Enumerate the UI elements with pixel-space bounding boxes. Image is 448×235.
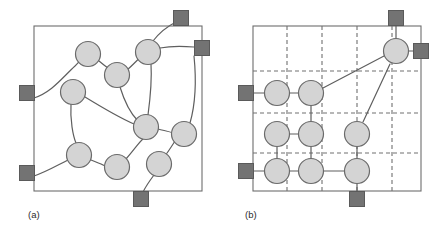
node-a8 bbox=[105, 155, 130, 180]
terminal-a-left-upper bbox=[20, 86, 35, 101]
node-b-r3c3 bbox=[345, 159, 370, 184]
node-b-r1c1 bbox=[265, 81, 290, 106]
terminal-a-right bbox=[195, 41, 210, 56]
node-b-top-right bbox=[384, 39, 409, 64]
node-a4 bbox=[61, 80, 86, 105]
terminal-a-bottom bbox=[134, 192, 149, 207]
node-a9 bbox=[147, 152, 172, 177]
node-b-r2c1 bbox=[265, 122, 290, 147]
panel-b-label: (b) bbox=[245, 209, 257, 220]
node-a3 bbox=[105, 63, 130, 88]
panel-b: (b) bbox=[239, 11, 429, 221]
terminal-a-top bbox=[174, 11, 189, 26]
node-b-r3c1 bbox=[265, 159, 290, 184]
terminal-b-right bbox=[414, 44, 429, 59]
terminal-b-left-lower bbox=[239, 164, 254, 179]
node-b-r1c2 bbox=[299, 81, 324, 106]
node-b-r3c2 bbox=[299, 159, 324, 184]
terminal-b-left-upper bbox=[239, 86, 254, 101]
node-a7 bbox=[67, 143, 92, 168]
terminal-b-top bbox=[389, 11, 404, 26]
network-comparison-figure: (a)(b) bbox=[0, 0, 448, 235]
node-a5 bbox=[134, 115, 159, 140]
node-b-r2c2 bbox=[299, 122, 324, 147]
node-a2 bbox=[136, 40, 161, 65]
terminal-b-bottom bbox=[350, 192, 365, 207]
figure-canvas: (a)(b) bbox=[0, 0, 448, 235]
panel-a: (a) bbox=[20, 11, 210, 221]
panel-a-label: (a) bbox=[28, 209, 40, 220]
node-a6 bbox=[172, 122, 197, 147]
node-a1 bbox=[76, 42, 101, 67]
node-b-r2c3 bbox=[345, 122, 370, 147]
terminal-a-left-lower bbox=[20, 166, 35, 181]
